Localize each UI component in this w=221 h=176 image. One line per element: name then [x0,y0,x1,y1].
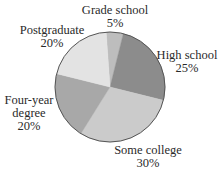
label-postgraduate-pct: 20% [20,37,85,50]
label-high-school-pct: 25% [157,62,218,75]
label-high-school: High school 25% [157,49,218,75]
label-some-college-pct: 30% [114,157,182,170]
label-four-year-pct: 20% [4,120,53,133]
label-grade-school: Grade school 5% [82,4,148,30]
label-grade-school-pct: 5% [82,17,148,30]
label-four-year-degree: Four-year degree 20% [4,94,53,133]
label-some-college: Some college 30% [114,144,182,170]
label-postgraduate: Postgraduate 20% [20,24,85,50]
